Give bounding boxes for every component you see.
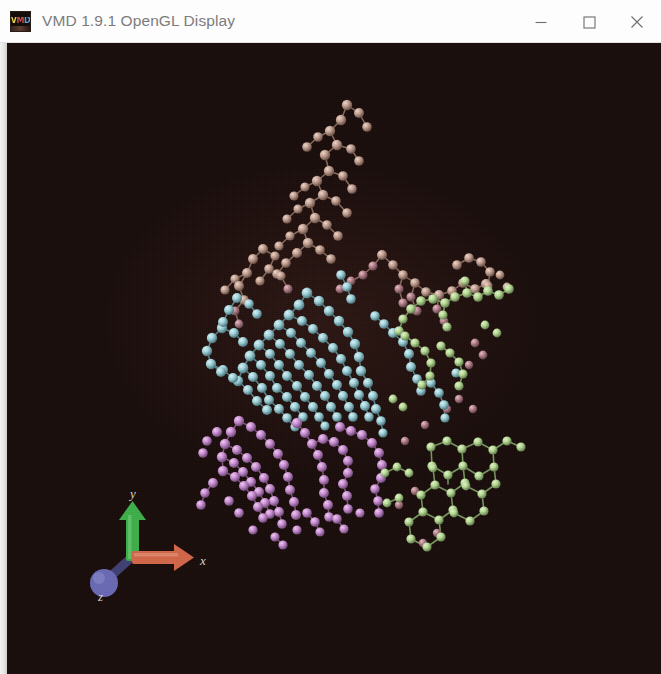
opengl-display-canvas[interactable]: y x z (7, 43, 661, 674)
vmd-icon: VMD (10, 11, 31, 32)
title-bar: VMD VMD 1.9.1 OpenGL Display (0, 0, 661, 43)
minimize-button[interactable] (517, 0, 565, 43)
window-title: VMD 1.9.1 OpenGL Display (42, 12, 235, 30)
axis-x-label: x (199, 553, 206, 568)
title-bar-drag-region[interactable] (235, 0, 517, 42)
axis-indicator: y x z (62, 489, 222, 619)
bond-group-violet (201, 421, 382, 545)
minimize-icon (529, 10, 553, 34)
window-left-frame-edge (0, 43, 7, 674)
axis-indicator-svg: y x z (62, 489, 222, 619)
axis-x (132, 544, 194, 571)
vmd-window: VMD VMD 1.9.1 OpenGL Display (0, 0, 661, 674)
vmd-icon-text: VMD (11, 17, 30, 25)
axis-z-label: z (97, 589, 103, 604)
maximize-button[interactable] (565, 0, 613, 43)
close-button[interactable] (613, 0, 661, 43)
close-icon (625, 10, 649, 34)
maximize-icon (577, 10, 601, 34)
axis-y-label: y (128, 489, 136, 501)
atom-group-violet (196, 416, 387, 550)
window-controls (517, 0, 661, 42)
axis-z (90, 557, 132, 597)
title-bar-left: VMD VMD 1.9.1 OpenGL Display (0, 0, 235, 42)
atom-group-green (381, 276, 526, 551)
